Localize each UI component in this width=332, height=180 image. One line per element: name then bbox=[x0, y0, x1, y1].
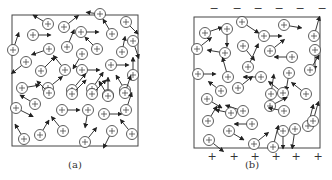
ion-with-velocity bbox=[32, 44, 55, 55]
ion-with-velocity bbox=[203, 106, 217, 126]
ion-with-velocity bbox=[121, 120, 138, 140]
velocity-arrow-icon bbox=[76, 80, 86, 90]
ion-with-velocity bbox=[278, 126, 289, 149]
ion-with-velocity bbox=[259, 31, 282, 42]
ion-with-velocity bbox=[249, 133, 269, 150]
negative-charge-sign: − bbox=[232, 2, 241, 15]
velocity-arrow-icon bbox=[15, 124, 21, 134]
positive-charge-sign: + bbox=[271, 150, 280, 163]
velocity-arrow-icon bbox=[27, 85, 39, 87]
velocity-arrow-icon bbox=[121, 120, 129, 130]
ion-with-velocity bbox=[35, 120, 49, 140]
positive-charge-sign: + bbox=[207, 150, 216, 163]
ion-with-velocity bbox=[222, 58, 233, 83]
panel-b-with-field: −−−−−−++++++(b) bbox=[192, 2, 327, 170]
ion-with-velocity bbox=[279, 20, 302, 31]
ion-with-velocity bbox=[237, 17, 259, 34]
velocity-arrow-icon bbox=[85, 115, 87, 127]
velocity-arrow-icon bbox=[43, 120, 49, 130]
ion-with-velocity bbox=[106, 60, 129, 71]
ion-with-velocity bbox=[20, 95, 40, 109]
ion-with-velocity bbox=[309, 17, 320, 42]
ion-with-velocity bbox=[85, 37, 102, 54]
ion-with-velocity bbox=[99, 81, 113, 101]
velocity-arrow-icon bbox=[242, 77, 252, 85]
velocity-arrow-icon bbox=[88, 128, 96, 138]
container-box bbox=[194, 17, 320, 148]
velocity-arrow-icon bbox=[250, 44, 258, 62]
velocity-arrow-icon bbox=[289, 26, 301, 28]
velocity-arrow-icon bbox=[54, 56, 62, 66]
ion-with-velocity bbox=[128, 58, 139, 81]
velocity-arrow-icon bbox=[247, 25, 259, 33]
velocity-arrow-icon bbox=[69, 30, 74, 42]
velocity-arrow-icon bbox=[201, 38, 211, 46]
ion-with-velocity bbox=[76, 27, 99, 38]
ion-with-velocity bbox=[268, 126, 279, 153]
ion-with-velocity bbox=[103, 19, 117, 39]
velocity-arrow-icon bbox=[313, 55, 319, 65]
panel-label: (a) bbox=[68, 159, 82, 170]
ion-with-velocity bbox=[87, 9, 106, 20]
negative-charge-sign: − bbox=[274, 2, 283, 15]
ion-drift-diagram: (a) −−−−−−++++++(b) bbox=[0, 0, 332, 180]
ion-with-velocity bbox=[67, 80, 86, 99]
panel-a-no-field: (a) bbox=[8, 9, 139, 171]
velocity-arrow-icon bbox=[95, 72, 103, 84]
velocity-arrow-icon bbox=[103, 19, 109, 29]
velocity-arrow-icon bbox=[258, 133, 268, 141]
velocity-arrow-icon bbox=[209, 82, 217, 88]
ion-with-velocity bbox=[52, 117, 69, 137]
ion-with-velocity bbox=[209, 82, 227, 97]
ion-with-velocity bbox=[193, 69, 216, 80]
velocity-arrow-icon bbox=[68, 16, 78, 24]
velocity-arrow-icon bbox=[315, 102, 319, 116]
ion-with-velocity bbox=[200, 27, 223, 38]
velocity-arrow-icon bbox=[116, 75, 122, 85]
ion-with-velocity bbox=[222, 24, 233, 47]
velocity-arrow-icon bbox=[87, 12, 95, 13]
ion-with-velocity bbox=[128, 36, 139, 59]
velocity-arrow-icon bbox=[15, 33, 19, 45]
velocity-arrow-icon bbox=[123, 37, 125, 47]
ion-with-velocity bbox=[224, 126, 244, 140]
velocity-arrow-icon bbox=[211, 106, 217, 116]
velocity-arrow-icon bbox=[45, 57, 55, 67]
velocity-arrow-icon bbox=[20, 95, 30, 101]
velocity-arrow-icon bbox=[208, 50, 220, 52]
velocity-arrow-icon bbox=[316, 17, 320, 31]
velocity-arrow-icon bbox=[130, 26, 138, 34]
ion-with-velocity bbox=[275, 52, 298, 63]
ion-with-velocity bbox=[290, 124, 301, 149]
ion-with-velocity bbox=[28, 30, 51, 41]
ion-with-velocity bbox=[59, 16, 79, 33]
ion-with-velocity bbox=[208, 48, 231, 59]
ion-with-velocity bbox=[62, 30, 75, 53]
velocity-arrow-icon bbox=[216, 110, 226, 112]
velocity-arrow-icon bbox=[274, 126, 278, 142]
ion-with-velocity bbox=[121, 17, 138, 34]
ion-with-velocity bbox=[36, 57, 55, 76]
panel-label: (b) bbox=[245, 159, 259, 170]
ion-with-velocity bbox=[83, 105, 94, 128]
ion-with-velocity bbox=[305, 55, 319, 75]
ion-with-velocity bbox=[77, 65, 100, 76]
velocity-arrow-icon bbox=[33, 15, 43, 21]
velocity-arrow-icon bbox=[32, 51, 44, 55]
ion-with-velocity bbox=[80, 128, 97, 148]
ion-with-velocity bbox=[17, 83, 40, 94]
velocity-arrow-icon bbox=[272, 75, 274, 89]
ion-with-velocity bbox=[57, 105, 80, 116]
velocity-arrow-icon bbox=[85, 37, 93, 45]
ion-with-velocity bbox=[292, 83, 312, 100]
ion-with-velocity bbox=[204, 135, 224, 152]
ion-with-velocity bbox=[104, 126, 118, 148]
negative-charge-sign: − bbox=[295, 2, 304, 15]
positive-charge-sign: + bbox=[291, 150, 300, 163]
negative-charge-sign: − bbox=[317, 2, 326, 15]
ion-with-velocity bbox=[99, 109, 122, 120]
ion-with-velocity bbox=[15, 124, 29, 144]
velocity-arrow-icon bbox=[234, 134, 244, 140]
velocity-arrow-icon bbox=[222, 58, 226, 72]
ion-with-velocity bbox=[54, 56, 71, 76]
